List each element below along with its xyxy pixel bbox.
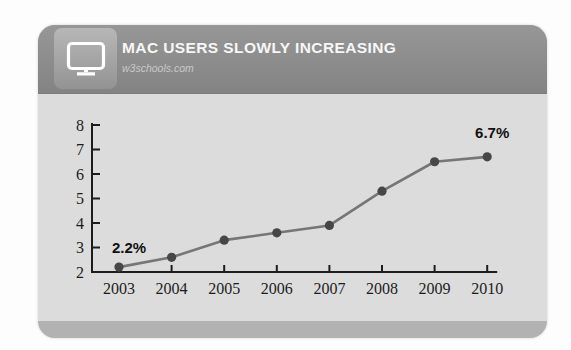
svg-text:2.2%: 2.2% [112,239,146,256]
svg-text:2004: 2004 [156,280,188,297]
svg-text:6.7%: 6.7% [475,124,509,141]
svg-text:4: 4 [76,215,84,232]
svg-text:2009: 2009 [419,280,451,297]
svg-text:3: 3 [76,239,84,256]
chart-subtitle: w3schools.com [122,62,396,74]
card-header: MAC USERS SLOWLY INCREASING w3schools.co… [38,25,547,94]
infographic: MAC USERS SLOWLY INCREASING w3schools.co… [0,0,571,350]
svg-text:8: 8 [76,117,84,134]
svg-text:2007: 2007 [313,280,345,297]
chart-title: MAC USERS SLOWLY INCREASING [122,38,396,58]
svg-text:2003: 2003 [103,280,135,297]
card-footer [38,321,547,338]
svg-text:6: 6 [76,166,84,183]
svg-text:2005: 2005 [208,280,240,297]
svg-text:2006: 2006 [261,280,293,297]
svg-text:2008: 2008 [366,280,398,297]
svg-text:2010: 2010 [471,280,503,297]
svg-text:2: 2 [76,264,84,281]
svg-text:5: 5 [76,190,84,207]
icon-tile [54,28,117,89]
line-chart: 2345678200320042005200620072008200920102… [38,94,547,321]
chart-area: 2345678200320042005200620072008200920102… [38,94,547,321]
svg-text:7: 7 [76,141,84,158]
header-text: MAC USERS SLOWLY INCREASING w3schools.co… [122,38,396,74]
monitor-icon [65,41,107,77]
chart-card: MAC USERS SLOWLY INCREASING w3schools.co… [38,25,547,338]
